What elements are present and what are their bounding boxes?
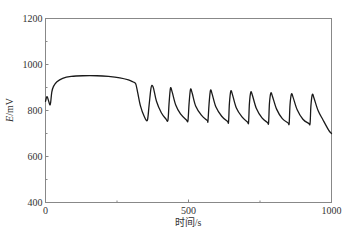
y-tick-label: 400: [28, 197, 43, 208]
y-tick-label: 1000: [23, 59, 43, 70]
y-axis-label: E/mV: [4, 97, 15, 123]
x-tick-label: 1000: [322, 205, 342, 216]
x-axis-ticks: 05001000: [43, 200, 342, 216]
potential-series-line: [46, 76, 332, 134]
y-tick-label: 1200: [23, 13, 43, 24]
plot-area: 40060080010001200 05001000: [23, 13, 342, 216]
line-chart: 40060080010001200 05001000 时间/s E/mV: [0, 0, 347, 232]
y-tick-label: 600: [28, 151, 43, 162]
y-tick-label: 800: [28, 105, 43, 116]
x-axis-label: 时间/s: [175, 216, 202, 228]
y-axis-label-variable: E: [4, 116, 15, 123]
y-axis-label-unit: /mV: [4, 97, 15, 116]
x-tick-label: 0: [43, 205, 48, 216]
x-tick-label: 500: [181, 205, 196, 216]
y-axis-ticks: 40060080010001200: [23, 13, 49, 208]
